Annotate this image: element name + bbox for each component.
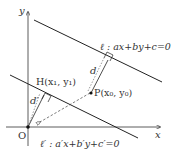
distance-d-prime-label: d′ — [30, 96, 39, 106]
x-axis-label: x — [155, 130, 161, 140]
point-p-label: P(x₀, y₀) — [94, 88, 132, 98]
distance-d-label: d — [90, 66, 96, 76]
point-o — [26, 125, 30, 129]
point-p — [89, 91, 92, 94]
point-h-label: H(x₁, y₁) — [36, 77, 76, 87]
line-l-label: ℓ : ax+by+c=0 — [100, 42, 171, 52]
translation-arrow — [40, 93, 90, 122]
y-axis-label: y — [19, 6, 25, 16]
line-l-prime-label: ℓ′ : a′x+b′y+c′=0 — [40, 139, 120, 149]
origin-label: O — [18, 131, 26, 141]
